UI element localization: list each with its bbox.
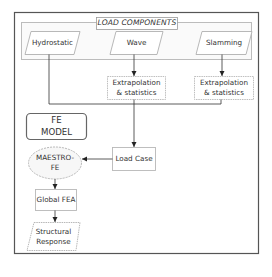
fe-model-label: FE MODEL (26, 113, 87, 140)
flowchart-canvas: LOAD COMPONENTS Hydrostatic Wave Slammin… (0, 0, 272, 277)
extrap-wave-label: Extrapolation & statistics (107, 76, 166, 100)
slamming-label: Slamming (196, 31, 252, 55)
load-case-label: Load Case (112, 147, 156, 171)
wave-label: Wave (110, 31, 163, 55)
extrap-slamming-label: Extrapolation & statistics (194, 76, 254, 100)
hydrostatic-label: Hydrostatic (25, 31, 80, 55)
global-fea-label: Global FEA (35, 189, 77, 211)
maestro-fe-label: MAESTRO- FE (28, 147, 82, 179)
structural-response-label: Structural Response (27, 222, 80, 251)
load-components-title: LOAD COMPONENTS (96, 17, 178, 30)
